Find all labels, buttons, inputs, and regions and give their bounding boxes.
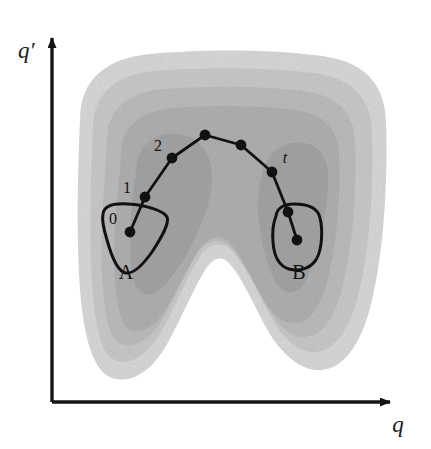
trajectory-label-1: 1: [123, 179, 131, 196]
trajectory-dot-t: [283, 207, 294, 218]
region-b-label: B: [292, 261, 305, 283]
contour-bands: [78, 50, 387, 379]
trajectory-dot-1: [140, 192, 151, 203]
trajectory-label-0: 0: [109, 210, 117, 227]
x-axis-label: q: [392, 412, 404, 437]
trajectory-dot-5: [267, 167, 278, 178]
trajectory-label-2: 2: [154, 137, 162, 154]
trajectory-dot-end: [292, 235, 303, 246]
figure-canvas: q′ q 0 1 2 t A B: [0, 0, 431, 449]
trajectory-dot-4: [236, 140, 247, 151]
trajectory-label-t: t: [283, 149, 288, 166]
trajectory-dot-2: [167, 153, 178, 164]
region-a-label: A: [119, 261, 134, 283]
trajectory-dot-3: [200, 130, 211, 141]
phase-space-figure: q′ q 0 1 2 t A B: [0, 0, 431, 449]
y-axis-label: q′: [18, 38, 36, 63]
trajectory-dot-0: [125, 227, 136, 238]
